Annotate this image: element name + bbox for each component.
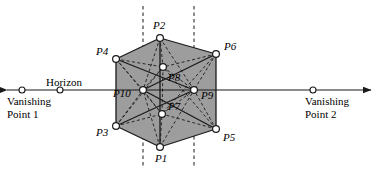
horizon-marker-right xyxy=(310,87,316,93)
vertex-label-p10: P10 xyxy=(113,88,131,99)
vertex-marker-p1 xyxy=(157,144,164,151)
horizon-marker-left-outer xyxy=(19,87,25,93)
vanishing-point-2-label-line2: Point 2 xyxy=(305,108,336,120)
vertex-label-p6: P6 xyxy=(224,41,236,52)
horizon-label: Horizon xyxy=(46,76,82,88)
vanishing-point-1-label-line1: Vanishing xyxy=(7,95,51,107)
vertex-marker-p7 xyxy=(159,111,166,118)
vertex-marker-p5 xyxy=(213,126,220,133)
vertex-label-p4: P4 xyxy=(96,46,108,57)
vertex-marker-p6 xyxy=(213,51,220,58)
vanishing-point-1-label-line2: Point 1 xyxy=(7,108,38,120)
vertex-marker-p10 xyxy=(140,87,147,94)
vertex-marker-p8 xyxy=(160,64,167,71)
vertex-label-p2: P2 xyxy=(153,20,165,31)
vertex-marker-p4 xyxy=(113,56,120,63)
vertex-label-p3: P3 xyxy=(96,127,108,138)
perspective-cube-figure: P1P2P3P4P5P6P7P8P9P10 Horizon Vanishing … xyxy=(0,0,378,172)
vertex-marker-p3 xyxy=(113,123,120,130)
vertex-label-p8: P8 xyxy=(168,72,180,83)
vanishing-point-2-label-line1: Vanishing xyxy=(305,95,349,107)
vertex-label-p5: P5 xyxy=(223,132,235,143)
vertex-label-p9: P9 xyxy=(201,90,213,101)
vertex-label-p1: P1 xyxy=(155,153,167,164)
vertex-marker-p9 xyxy=(191,87,198,94)
vertex-label-p7: P7 xyxy=(168,101,180,112)
vertex-marker-p2 xyxy=(157,35,164,42)
